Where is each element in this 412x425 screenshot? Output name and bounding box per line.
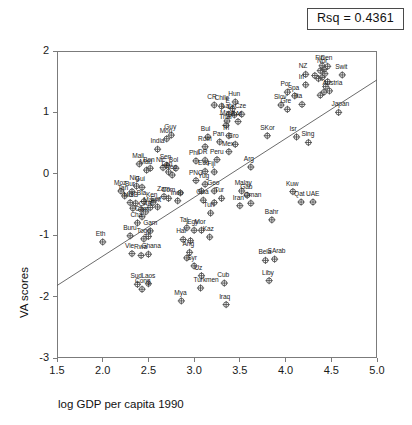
y-tick-mark: [53, 296, 57, 297]
data-point-marker: [128, 188, 135, 195]
x-tick-mark: [377, 358, 378, 362]
x-tick-mark: [239, 358, 240, 362]
data-point-marker: [172, 165, 179, 172]
data-point-marker: [187, 237, 194, 244]
x-tick-mark: [148, 358, 149, 362]
data-point-marker: [298, 101, 305, 108]
data-point-marker: [138, 184, 145, 191]
x-tick-label: 3.5: [226, 364, 254, 376]
data-point-marker: [335, 109, 342, 116]
data-point-marker: [225, 148, 232, 155]
data-point-marker: [247, 163, 254, 170]
x-tick-label: 2.5: [134, 364, 162, 376]
data-point-marker: [202, 143, 209, 150]
data-point-marker: [266, 277, 273, 284]
data-point-marker: [326, 87, 333, 94]
data-point-marker: [127, 232, 134, 239]
data-point-marker: [264, 132, 271, 139]
data-point-marker: [211, 168, 218, 175]
y-tick-mark: [53, 358, 57, 359]
data-point-marker: [138, 252, 145, 259]
y-tick-label: 0: [21, 167, 49, 179]
y-tick-label: 1: [21, 105, 49, 117]
data-point-marker: [183, 224, 190, 231]
x-tick-label: 2.0: [89, 364, 117, 376]
data-point-marker: [302, 71, 309, 78]
data-point-marker: [140, 198, 147, 205]
data-point-marker: [268, 216, 275, 223]
data-point-marker: [284, 89, 291, 96]
x-tick-label: 4.0: [272, 364, 300, 376]
x-tick-mark: [57, 358, 58, 362]
y-tick-mark: [53, 235, 57, 236]
data-point-marker: [320, 89, 327, 96]
data-point-marker: [225, 132, 232, 139]
data-point-marker: [317, 92, 324, 99]
data-point-marker: [202, 181, 209, 188]
data-point-marker: [298, 198, 305, 205]
data-point-marker: [232, 141, 239, 148]
data-point-marker: [204, 133, 211, 140]
data-point-marker: [178, 297, 185, 304]
data-point-marker: [271, 256, 278, 263]
data-point-marker: [211, 199, 218, 206]
data-point-marker: [339, 71, 346, 78]
data-point-marker: [218, 195, 225, 202]
y-tick-label: -3: [21, 351, 49, 363]
y-axis-title: VA scores: [18, 267, 30, 318]
data-point-marker: [197, 284, 204, 291]
data-point-marker: [293, 133, 300, 140]
data-point-marker: [202, 157, 209, 164]
data-point-marker: [236, 202, 243, 209]
data-point-marker: [180, 236, 187, 243]
data-point-marker: [128, 250, 135, 257]
x-tick-mark: [102, 358, 103, 362]
data-point-marker: [223, 301, 230, 308]
data-point-marker: [165, 168, 172, 175]
data-point-marker: [277, 101, 284, 108]
data-point-marker: [289, 188, 296, 195]
data-point-marker: [309, 198, 316, 205]
x-tick-mark: [285, 358, 286, 362]
data-point-marker: [198, 227, 205, 234]
data-point-marker: [198, 272, 205, 279]
scatter-layer: [0, 0, 412, 425]
chart-canvas: Rsq = 0.4361 EthMozTanBurMaliNigGuiMadBe…: [0, 0, 412, 425]
data-point-marker: [231, 111, 238, 118]
x-tick-label: 5.0: [363, 364, 391, 376]
data-point-marker: [174, 197, 181, 204]
data-point-marker: [177, 189, 184, 196]
data-point-marker: [218, 103, 225, 110]
data-point-marker: [154, 146, 161, 153]
data-point-marker: [191, 262, 198, 269]
y-tick-mark: [53, 112, 57, 113]
data-point-marker: [134, 281, 141, 288]
x-tick-mark: [194, 358, 195, 362]
data-point-marker: [211, 187, 218, 194]
data-point-marker: [206, 233, 213, 240]
data-point-marker: [145, 280, 152, 287]
data-point-marker: [324, 63, 331, 70]
data-point-marker: [284, 106, 291, 113]
data-point-marker: [302, 81, 309, 88]
data-point-marker: [234, 118, 241, 125]
x-tick-mark: [331, 358, 332, 362]
data-point-marker: [311, 72, 318, 79]
y-tick-mark: [53, 173, 57, 174]
data-point-marker: [221, 279, 228, 286]
x-tick-label: 4.5: [317, 364, 345, 376]
data-point-marker: [238, 187, 245, 194]
data-point-marker: [192, 177, 199, 184]
y-tick-label: -1: [21, 228, 49, 240]
data-point-marker: [291, 92, 298, 99]
data-point-marker: [232, 98, 239, 105]
data-point-marker: [169, 171, 176, 178]
data-point-marker: [133, 182, 140, 189]
data-point-marker: [134, 219, 141, 226]
data-point-marker: [238, 111, 245, 118]
data-point-marker: [99, 238, 106, 245]
data-point-marker: [244, 192, 251, 199]
data-point-marker: [213, 156, 220, 163]
data-point-marker: [202, 168, 209, 175]
y-tick-mark: [53, 51, 57, 52]
